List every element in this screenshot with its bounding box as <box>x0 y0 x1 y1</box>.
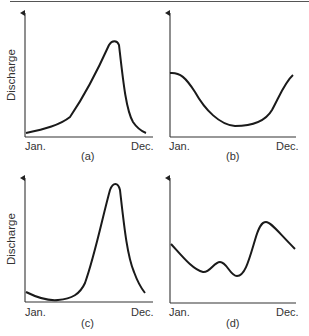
panel-a-caption: (a) <box>81 151 94 162</box>
panel-c-x-end: Dec. <box>131 307 154 318</box>
panel-b-axes <box>170 13 296 137</box>
panel-d-x-end: Dec. <box>276 307 299 318</box>
panel-d-caption: (d) <box>226 318 239 329</box>
panel-b-x-end: Dec. <box>276 141 299 152</box>
panel-c-caption: (c) <box>81 318 94 329</box>
panel-d-curve <box>171 222 295 276</box>
panel-a-x-start: Jan. <box>25 141 46 152</box>
panel-c-x-start: Jan. <box>25 307 46 318</box>
panel-b-caption: (b) <box>226 151 239 162</box>
panel-b-curve <box>170 73 293 126</box>
panel-c-axes <box>25 178 153 302</box>
panel-a-axes <box>25 13 153 137</box>
panel-d-x-start: Jan. <box>169 307 190 318</box>
panel-d-axes <box>170 178 296 303</box>
panel-a-ylabel: Discharge <box>6 49 18 101</box>
panel-a-curve <box>26 41 146 133</box>
panel-c-curve <box>26 184 145 300</box>
figure-canvas <box>0 0 309 336</box>
panel-b-x-start: Jan. <box>169 141 190 152</box>
panel-c-ylabel: Discharge <box>6 213 18 265</box>
panel-a-x-end: Dec. <box>131 141 154 152</box>
